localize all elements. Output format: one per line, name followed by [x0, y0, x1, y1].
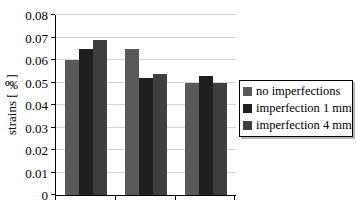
- x-axis-tick-marks: [55, 196, 235, 200]
- bar-no-imperfections: [125, 49, 139, 195]
- y-tick-label: 0.03: [0, 121, 48, 134]
- bar-imperfection-4-mm: [153, 74, 167, 196]
- bar-imperfection-4-mm: [213, 83, 227, 196]
- legend: no imperfectionsimperfection 1 mmimperfe…: [239, 80, 353, 137]
- x-tick-mark: [115, 196, 116, 200]
- strain-bar-chart: strains [‰] 00.010.020.030.040.050.060.0…: [0, 0, 356, 221]
- y-tick-label: 0.06: [0, 54, 48, 67]
- bar-no-imperfections: [65, 60, 79, 195]
- bar-imperfection-1-mm: [79, 49, 93, 195]
- legend-marker-imperfection-1-mm: [243, 104, 252, 113]
- y-tick-label: 0.04: [0, 99, 48, 112]
- y-tick-label: 0.02: [0, 144, 48, 157]
- y-tick-label: 0.01: [0, 166, 48, 179]
- plot-area: [55, 15, 236, 196]
- legend-item: imperfection 4 mm: [243, 117, 349, 134]
- y-tick-label: 0.05: [0, 76, 48, 89]
- legend-label: no imperfections: [256, 85, 340, 98]
- legend-item: imperfection 1 mm: [243, 100, 349, 117]
- x-tick-mark: [55, 196, 56, 200]
- bar-group: [176, 15, 236, 195]
- bar-imperfection-1-mm: [139, 78, 153, 195]
- bar-no-imperfections: [185, 83, 199, 196]
- y-tick-label: 0: [0, 189, 48, 202]
- legend-marker-no-imperfections: [243, 87, 252, 96]
- x-tick-mark: [234, 196, 235, 200]
- legend-marker-imperfection-4-mm: [243, 121, 252, 130]
- x-tick-mark: [175, 196, 176, 200]
- legend-label: imperfection 4 mm: [256, 119, 352, 132]
- bar-imperfection-4-mm: [93, 40, 107, 195]
- y-tick-label: 0.07: [0, 31, 48, 44]
- y-tick-label: 0.08: [0, 9, 48, 22]
- bar-imperfection-1-mm: [199, 76, 213, 195]
- legend-item: no imperfections: [243, 83, 349, 100]
- bar-group: [116, 15, 176, 195]
- y-axis-labels: 00.010.020.030.040.050.060.070.08: [0, 15, 48, 195]
- legend-label: imperfection 1 mm: [256, 102, 352, 115]
- bar-group: [56, 15, 116, 195]
